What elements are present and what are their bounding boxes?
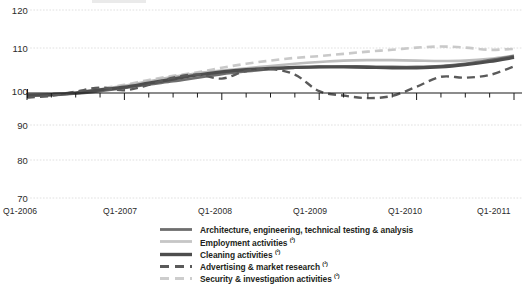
legend-item-employment[interactable]: Employment activities (²) — [160, 236, 500, 248]
legend-swatch-advertising — [160, 261, 192, 272]
legend-label-employment: Employment activities (²) — [200, 237, 295, 248]
legend-label-architecture: Architecture, engineering, technical tes… — [200, 224, 413, 235]
legend-item-advertising[interactable]: Advertising & market research (²) — [160, 261, 500, 273]
legend-label-cleaning: Cleaning activities (²) — [200, 249, 280, 260]
legend-swatch-cleaning — [160, 249, 192, 260]
legend-label-advertising: Advertising & market research (²) — [200, 261, 328, 272]
chart-container: 120 110 100 90 80 70 Q1-2006 Q1-2007 Q1-… — [0, 0, 522, 292]
series-line-2 — [27, 57, 514, 95]
legend-item-security[interactable]: Security & investigation activities (²) — [160, 273, 500, 285]
chart-legend: Architecture, engineering, technical tes… — [160, 224, 500, 285]
series-line-4 — [27, 46, 514, 95]
legend-swatch-architecture — [160, 224, 192, 235]
legend-swatch-employment — [160, 236, 192, 247]
legend-item-architecture[interactable]: Architecture, engineering, technical tes… — [160, 224, 500, 236]
plot-area — [0, 0, 522, 215]
legend-swatch-security — [160, 273, 192, 284]
legend-label-security: Security & investigation activities (²) — [200, 273, 340, 284]
legend-item-cleaning[interactable]: Cleaning activities (²) — [160, 248, 500, 260]
